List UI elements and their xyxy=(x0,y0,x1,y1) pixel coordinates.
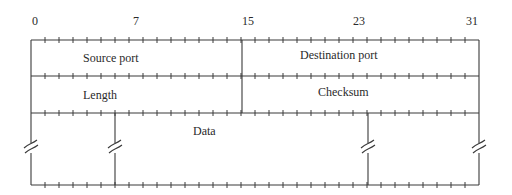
bit-label-31: 31 xyxy=(466,14,478,29)
field-checksum: Checksum xyxy=(318,85,369,100)
bit-label-23: 23 xyxy=(353,14,365,29)
udp-header-diagram xyxy=(0,0,512,195)
bit-label-7: 7 xyxy=(133,14,139,29)
field-source-port: Source port xyxy=(83,51,139,66)
bit-label-0: 0 xyxy=(32,14,38,29)
field-destination-port: Destination port xyxy=(300,48,378,63)
field-length: Length xyxy=(83,88,117,103)
field-data: Data xyxy=(193,124,216,139)
bit-label-15: 15 xyxy=(242,14,254,29)
